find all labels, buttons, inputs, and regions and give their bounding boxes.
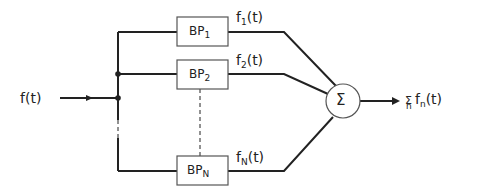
filter-name: BP — [189, 67, 204, 81]
sigma-group: Σ n — [405, 92, 415, 106]
input-label: f(t) — [20, 91, 41, 105]
summer-symbol: Σ — [336, 93, 345, 108]
output-arg: (t) — [247, 52, 263, 68]
filter-sub: 1 — [204, 30, 210, 40]
filter-sub: N — [202, 169, 209, 179]
filter-name: BP — [187, 163, 202, 177]
output-f2: f2(t) — [236, 53, 263, 70]
sigma-sub: n — [406, 102, 412, 111]
sum-output: Σ n fn(t) — [405, 92, 442, 109]
output-f1: f1(t) — [236, 10, 263, 27]
filter-bp1: BP1 — [189, 25, 210, 40]
sum-arg: (t) — [426, 91, 442, 107]
filter-bp2: BP2 — [189, 68, 210, 83]
filter-sub: 2 — [204, 73, 210, 83]
output-arg: (t) — [248, 149, 264, 165]
filter-name: BP — [189, 24, 204, 38]
output-arg: (t) — [247, 9, 263, 25]
output-fn: fN(t) — [236, 150, 264, 167]
output-sub: N — [241, 157, 248, 167]
filter-bpn: BPN — [187, 164, 209, 179]
